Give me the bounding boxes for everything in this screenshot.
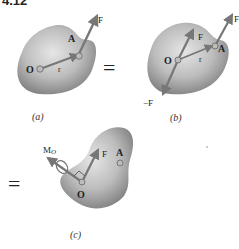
point-a-c [117, 160, 123, 166]
equals-sign-2: = [8, 171, 20, 196]
panel-b: O A r F F −F (b) [143, 14, 239, 124]
label-o-b: O [164, 55, 172, 66]
label-f-at-o-b: F [198, 32, 203, 42]
statics-diagram: O A r F (a) = O A r F F −F (b) = O A F [0, 0, 239, 249]
label-neg-f-b: −F [143, 98, 153, 108]
label-a-b: A [218, 43, 226, 54]
point-a-a [76, 53, 82, 59]
label-a-a: A [68, 33, 76, 44]
label-f-a: F [98, 15, 103, 25]
label-moment-c: MO [43, 145, 56, 156]
label-moment-subscript: O [51, 148, 56, 156]
caption-b: (b) [170, 112, 182, 124]
stray-dot [206, 146, 208, 148]
rigid-body-c [60, 127, 133, 208]
label-r-b: r [199, 55, 202, 64]
equals-sign-1: = [103, 55, 115, 80]
point-o-c [79, 179, 85, 185]
rigid-body-b [147, 23, 228, 95]
label-f-at-a-b: F [234, 14, 239, 24]
panel-a: O A r F (a) [17, 15, 103, 123]
label-a-c: A [116, 147, 124, 158]
caption-c: (c) [70, 229, 82, 241]
label-o-c: O [77, 189, 85, 200]
label-o-a: O [26, 64, 34, 75]
label-moment-main: M [43, 145, 51, 155]
point-o-b [175, 57, 181, 63]
rigid-body-a [17, 25, 96, 94]
point-o-a [37, 66, 43, 72]
label-r-a: r [58, 65, 61, 74]
label-f-c: F [102, 149, 107, 159]
caption-a: (a) [32, 111, 44, 123]
panel-c: O A F MO (c) [43, 127, 133, 241]
